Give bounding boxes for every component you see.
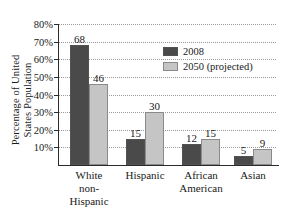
bar-chart: Percentage of United States Population 8… [0,0,281,211]
x-axis-label: Asian [213,169,281,182]
bar-value-label: 12 [186,132,197,144]
y-tick-label: 70% [34,36,53,47]
y-tick-label: 30% [34,107,53,118]
y-tick-label: 80% [34,19,53,30]
bar-value-label: 30 [149,100,160,112]
bar-value-label: 15 [130,127,141,139]
bar-value-label: 46 [93,72,104,84]
x-axis-label-line: Hispanic [49,195,129,208]
x-axis-line [58,165,279,166]
bar[interactable]: 30 [145,112,164,165]
legend-label: 2050 (projected) [183,61,253,72]
legend-swatch [163,47,178,56]
bar-value-label: 5 [241,144,247,156]
bar-value-label: 9 [260,137,266,149]
bar[interactable]: 68 [70,45,89,165]
legend-item[interactable]: 2008 [163,45,253,57]
bar-group: 6846 [70,24,108,165]
legend-swatch [163,62,178,71]
y-tick-label: 40% [34,89,53,100]
y-axis-line [58,24,59,165]
y-axis-title-line1: Percentage of United [10,55,22,146]
x-axis-label-line: American [161,182,241,195]
legend-item[interactable]: 2050 (projected) [163,60,253,72]
bar-group: 1530 [126,24,164,165]
bar-value-label: 15 [205,127,216,139]
bar[interactable]: 15 [126,139,145,165]
bar[interactable]: 46 [89,84,108,165]
bar[interactable]: 5 [234,156,253,165]
x-axis-label-line: non- [49,182,129,195]
x-axis-label-line: Asian [213,169,281,182]
bar[interactable]: 9 [253,149,272,165]
legend-label: 2008 [183,46,204,57]
y-tick-label: 50% [34,71,53,82]
y-tick-label: 10% [34,142,53,153]
chart-legend: 20082050 (projected) [163,45,253,72]
y-tick-label: 60% [34,54,53,65]
bar-value-label: 68 [74,33,85,45]
bar[interactable]: 12 [182,144,201,165]
y-axis-title-line2: States Population [22,63,34,138]
y-tick-label: 20% [34,124,53,135]
bar[interactable]: 15 [201,139,220,165]
